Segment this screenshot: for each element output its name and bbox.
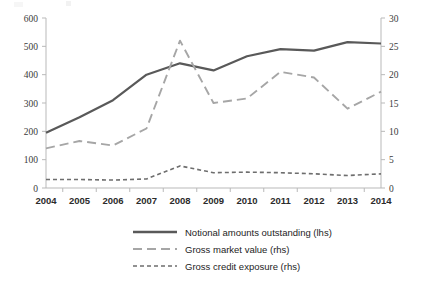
right-axis-tick-label: 15 [389, 99, 399, 109]
left-axis-tick-label: 200 [24, 127, 39, 137]
x-axis-tick-label: 2009 [203, 195, 224, 206]
right-axis-tick-label: 30 [389, 14, 399, 24]
left-axis-tick-label: 600 [24, 14, 39, 24]
left-axis-tick-label: 100 [24, 155, 39, 165]
right-axis-tick-label: 25 [389, 42, 399, 52]
x-axis-tick-label: 2007 [136, 195, 157, 206]
series-line-2 [46, 166, 381, 180]
x-axis-tick-label: 2005 [69, 195, 91, 206]
left-axis-tick-label: 500 [24, 42, 39, 52]
legend-item-label: Notional amounts outstanding (lhs) [185, 227, 332, 238]
series-line-1 [46, 41, 381, 149]
crop-artifact-right [66, 1, 71, 6]
right-axis-tick-label: 20 [389, 70, 399, 80]
x-axis-tick-label: 2014 [370, 195, 392, 206]
crop-artifact-left [14, 2, 23, 7]
x-axis-tick-label: 2012 [303, 195, 324, 206]
left-axis-tick-label: 400 [24, 70, 39, 80]
left-axis-tick-label: 300 [24, 99, 39, 109]
x-axis-tick-label: 2011 [270, 195, 291, 206]
right-axis-tick-label: 10 [389, 127, 399, 137]
x-axis-tick-label: 2006 [102, 195, 123, 206]
chart-legend: Notional amounts outstanding (lhs)Gross … [133, 227, 332, 272]
x-axis-tick-label: 2010 [236, 195, 257, 206]
x-axis-tick-label: 2008 [169, 195, 190, 206]
x-axis-tick-label: 2004 [35, 195, 57, 206]
legend-item-label: Gross market value (rhs) [185, 244, 290, 255]
left-axis-tick-label: 0 [33, 184, 38, 194]
right-axis-tick-label: 0 [389, 184, 394, 194]
x-axis-tick-label: 2013 [337, 195, 358, 206]
legend-item-label: Gross credit exposure (rhs) [185, 261, 300, 272]
dual-axis-line-chart: 0100200300400500600051015202530200420052… [0, 0, 426, 289]
series-group [46, 41, 381, 180]
series-line-0 [46, 42, 381, 133]
chart-container: 0100200300400500600051015202530200420052… [0, 0, 426, 289]
right-axis-tick-label: 5 [389, 155, 394, 165]
